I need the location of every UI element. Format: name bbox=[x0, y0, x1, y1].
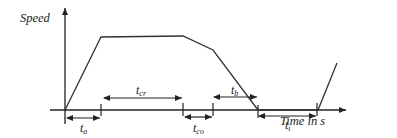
interval-ta-label: ta bbox=[80, 121, 87, 136]
interval-tb-label: tb bbox=[231, 83, 238, 98]
interval-tco-label: tco bbox=[193, 121, 204, 136]
speed-time-diagram: Speed Time in s ta tcr tco bbox=[0, 0, 397, 138]
speed-curve bbox=[65, 36, 337, 110]
interval-tcr-label: tcr bbox=[136, 83, 147, 98]
y-axis-label: Speed bbox=[20, 11, 51, 25]
